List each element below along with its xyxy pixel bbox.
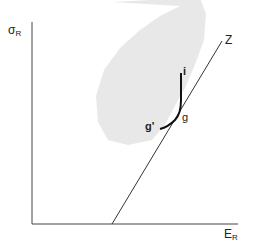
point-i-label: i	[183, 66, 186, 77]
point-g-prime-label: g'	[145, 121, 154, 132]
point-g-label: g	[182, 112, 188, 123]
line-z-label: Z	[225, 34, 232, 46]
y-axis-label: σR	[8, 24, 21, 38]
x-axis-label: ER	[224, 228, 238, 242]
diagram-canvas	[0, 0, 253, 242]
